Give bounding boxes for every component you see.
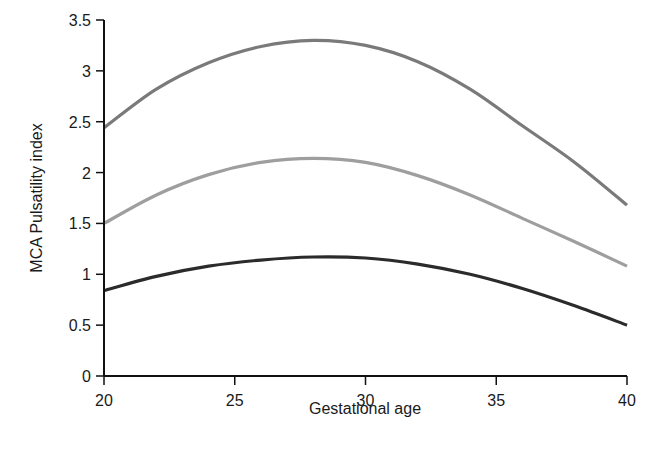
x-tick-label: 35: [487, 392, 505, 409]
chart: 00.511.522.533.52025303540 Gestational a…: [0, 0, 648, 462]
axes: 00.511.522.533.52025303540: [69, 12, 636, 409]
series-line-upper: [104, 40, 627, 205]
y-tick-label: 3.5: [69, 12, 91, 29]
y-tick-label: 3: [82, 63, 91, 80]
y-tick-label: 2: [82, 165, 91, 182]
x-axis-title: Gestational age: [309, 400, 421, 417]
y-tick-label: 0: [82, 368, 91, 385]
y-axis-title: MCA Pulsatility index: [28, 123, 45, 272]
x-tick-label: 20: [95, 392, 113, 409]
series-line-middle: [104, 158, 627, 266]
y-tick-label: 2.5: [69, 114, 91, 131]
y-tick-label: 1: [82, 266, 91, 283]
x-tick-label: 40: [618, 392, 636, 409]
y-tick-label: 1.5: [69, 215, 91, 232]
series-line-lower: [104, 257, 627, 325]
y-tick-label: 0.5: [69, 317, 91, 334]
plot-area: [104, 40, 627, 325]
x-tick-label: 25: [226, 392, 244, 409]
